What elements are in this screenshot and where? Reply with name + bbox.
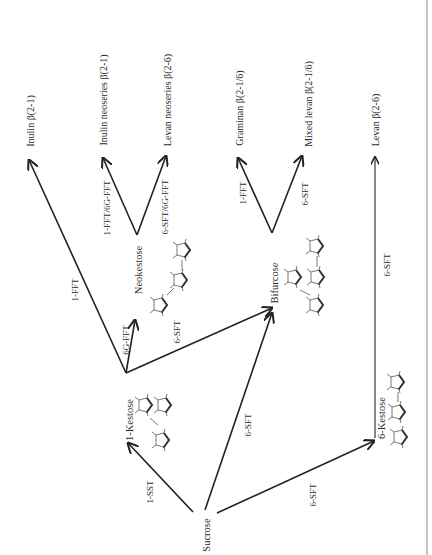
- enzyme-6-sft-mixed-levan: 6-SFT: [300, 182, 310, 206]
- node-sucrose: Sucrose: [201, 518, 212, 552]
- edge-1kestose-bifurcose: [126, 308, 272, 373]
- structure-6-kestose: [387, 371, 407, 448]
- enzyme-6-sft-kestose-bifurcose: 6-SFT: [172, 320, 182, 344]
- edge-sucrose-6kestose: [217, 441, 374, 513]
- edge-sucrose-bifurcose: [205, 313, 272, 510]
- enzyme-1-sst: 1-SST: [145, 480, 155, 504]
- enzyme-6-sft-sucrose-bifurcose: 6-SFT: [243, 413, 253, 437]
- enzyme-6g-fft: 6G-FFT: [121, 325, 131, 355]
- node-1-kestose: 1-Kestose: [124, 399, 135, 441]
- structure-1-kestose: [135, 394, 171, 451]
- enzyme-1-fft-6g-fft: 1-FFT/6G-FFT: [102, 180, 112, 236]
- product-inulin-neoseries: Inulin neoseries β(2-1): [98, 54, 110, 145]
- edge-sucrose-1kestose: [128, 443, 193, 512]
- enzyme-6-sft-6g-fft: 6-SFT/6G-FFT: [160, 179, 170, 235]
- enzyme-6-sft-sucrose-6kestose: 6-SFT: [308, 483, 318, 507]
- node-bifurcose: Bifurcose: [269, 262, 280, 303]
- product-graminan: Graminan β(2-1/6): [234, 70, 246, 145]
- product-inulin: Inulin β(2-1): [25, 95, 37, 146]
- enzyme-1-fft-graminan: 1-FFT: [238, 181, 248, 205]
- enzyme-6-sft-levan: 6-SFT: [382, 253, 392, 277]
- product-mixed-levan: Mixed levan β(2-1/6): [303, 61, 315, 147]
- edge-bifurcose-mixed-levan: [272, 156, 302, 233]
- fructan-pathway-diagram: Sucrose 1-Kestose Neokestose Bifurcose 6…: [0, 0, 432, 555]
- node-neokestose: Neokestose: [133, 245, 144, 294]
- product-levan: Levan β(2-6): [370, 94, 382, 147]
- node-6-kestose: 6-Kestose: [376, 397, 387, 439]
- product-levan-neoseries: Levan neoseries β(2-6): [162, 54, 174, 146]
- structure-bifurcose: [284, 235, 324, 316]
- enzyme-1-fft-inulin: 1-FFT: [70, 278, 80, 302]
- structure-neokestose: [150, 239, 190, 316]
